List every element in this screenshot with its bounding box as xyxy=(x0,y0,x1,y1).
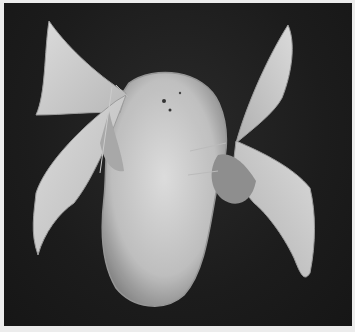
photograph xyxy=(4,3,352,326)
moths-on-cocoon-illustration xyxy=(4,3,352,326)
